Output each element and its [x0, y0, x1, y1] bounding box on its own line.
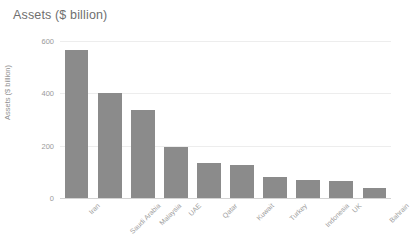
bar[interactable] — [164, 147, 188, 198]
x-axis-tick-label: Kuwait — [255, 202, 275, 222]
plot-area — [60, 41, 391, 198]
x-axis-tick-label: UK — [351, 202, 363, 214]
bar[interactable] — [197, 163, 221, 198]
bar[interactable] — [98, 93, 122, 198]
bar[interactable] — [296, 180, 320, 198]
bar[interactable] — [131, 110, 155, 198]
x-axis-tick-label: Indonesia — [324, 202, 350, 228]
x-axis-tick-label: Iran — [87, 202, 100, 215]
y-axis-tick-labels: 0200400600 — [0, 41, 54, 198]
x-axis-tick-label: Saudi Arabia — [128, 202, 161, 235]
x-axis-tick-label: Bahrain — [389, 202, 411, 224]
gridline — [60, 41, 391, 42]
bar[interactable] — [363, 188, 387, 198]
y-axis-tick-label: 0 — [50, 194, 54, 203]
bar[interactable] — [329, 181, 353, 198]
x-axis-line — [60, 198, 391, 199]
bar[interactable] — [65, 50, 89, 198]
bar[interactable] — [263, 177, 287, 198]
bar[interactable] — [230, 165, 254, 198]
x-axis-tick-label: UAE — [187, 202, 202, 217]
y-axis-tick-label: 600 — [41, 37, 54, 46]
x-axis-tick-label: Turkey — [288, 202, 308, 222]
x-axis-tick-label: Qatar — [221, 202, 238, 219]
y-axis-tick-label: 400 — [41, 89, 54, 98]
y-axis-tick-label: 200 — [41, 141, 54, 150]
chart-title: Assets ($ billion) — [13, 8, 107, 22]
